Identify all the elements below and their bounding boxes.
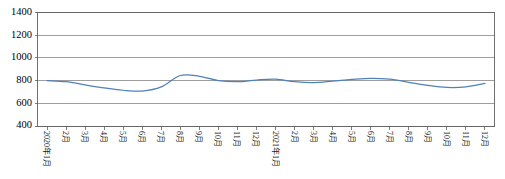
x-tick-label-5: 6月 [137, 131, 146, 143]
y-tick-label-800: 800 [16, 74, 32, 85]
y-tick-label-1000: 1000 [11, 51, 32, 62]
x-tick-label-2: 3月 [80, 131, 89, 143]
x-tick-label-13: 2月 [290, 131, 299, 143]
x-axis-tick-labels: 2020年1月2月3月4月5月6月7月8月9月10月11月12月2021年1月2… [42, 131, 489, 167]
x-tick-label-19: 8月 [404, 131, 413, 143]
x-tick-label-10: 11月 [232, 131, 241, 147]
x-tick-label-20: 9月 [423, 131, 432, 143]
gridlines [38, 13, 495, 127]
x-tick-label-6: 7月 [156, 131, 165, 143]
line-chart: 400600800100012001400 2020年1月2月3月4月5月6月7… [0, 0, 505, 179]
x-tick-label-17: 6月 [366, 131, 375, 143]
x-tick-label-9: 10月 [213, 131, 222, 147]
x-axis-tickmarks [47, 126, 485, 130]
x-tick-label-23: 12月 [480, 131, 489, 147]
x-tick-label-1: 2月 [61, 131, 70, 143]
x-tick-label-21: 10月 [442, 131, 451, 147]
plot-area-frame [38, 13, 495, 127]
series-line-price [47, 75, 485, 92]
x-tick-label-0: 2020年1月 [42, 131, 52, 167]
x-tick-label-3: 4月 [99, 131, 108, 143]
x-tick-label-8: 9月 [194, 131, 203, 143]
x-tick-label-16: 5月 [347, 131, 356, 143]
x-tick-label-7: 8月 [175, 131, 184, 143]
y-tick-label-600: 600 [16, 97, 32, 108]
y-tick-label-1200: 1200 [11, 29, 32, 40]
x-tick-label-22: 11月 [461, 131, 470, 147]
y-tick-label-400: 400 [16, 119, 32, 130]
x-tick-label-12: 2021年1月 [271, 131, 281, 167]
x-tick-label-14: 3月 [309, 131, 318, 143]
y-axis-tick-labels: 400600800100012001400 [11, 6, 38, 131]
x-tick-label-15: 4月 [328, 131, 337, 143]
x-tick-label-11: 12月 [251, 131, 260, 147]
chart-canvas: 400600800100012001400 2020年1月2月3月4月5月6月7… [0, 0, 505, 179]
y-tick-label-1400: 1400 [11, 6, 32, 17]
x-tick-label-4: 5月 [118, 131, 127, 143]
x-tick-label-18: 7月 [385, 131, 394, 143]
